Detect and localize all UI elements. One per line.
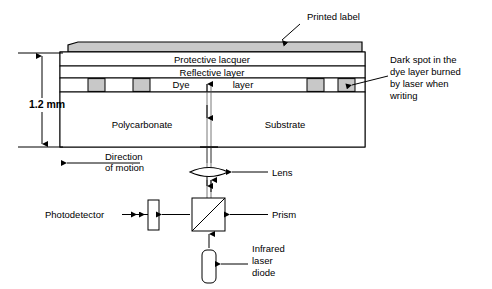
substrate-label: Substrate: [265, 119, 306, 130]
direction-of-motion-callout: Direction of motion: [67, 151, 144, 173]
dark-spot-pit: [133, 79, 150, 92]
cd-r-cross-section-diagram: Protective lacquer Reflective layer Dye …: [0, 0, 492, 289]
dark-spot-pit: [88, 79, 105, 92]
layer-label: layer: [233, 79, 254, 90]
lens-icon: [190, 168, 228, 177]
direction-of-motion-line-2: of motion: [105, 162, 144, 173]
protective-lacquer-layer: Protective lacquer: [60, 52, 365, 66]
direction-of-motion-line-1: Direction: [105, 151, 143, 162]
diagram-canvas: Protective lacquer Reflective layer Dye …: [0, 0, 492, 289]
laser-diode-line-3: diode: [252, 267, 275, 278]
laser-diode-line-2: laser: [252, 255, 273, 266]
polycarbonate-label: Polycarbonate: [112, 119, 173, 130]
printed-label-callout-text: Printed label: [307, 11, 360, 22]
prism-assembly: Prism: [192, 198, 296, 231]
thickness-label: 1.2 mm: [29, 98, 65, 110]
dark-spot-line-2: dye layer burned: [390, 66, 461, 77]
printed-label-callout: Printed label: [282, 11, 360, 40]
lens-label: Lens: [272, 167, 293, 178]
photodetector-label: Photodetector: [45, 209, 104, 220]
dye-layer: Dye layer: [60, 78, 365, 92]
dark-spot-pit: [307, 79, 324, 92]
reflective-layer: Reflective layer: [60, 66, 365, 78]
thickness-dimension: 1.2 mm: [18, 53, 65, 147]
reflective-layer-label: Reflective layer: [180, 67, 245, 78]
polycarbonate-substrate: Polycarbonate Substrate: [60, 92, 365, 147]
laser-diode-line-1: Infrared: [252, 243, 285, 254]
photodetector-icon: [148, 200, 159, 230]
dark-spot-line-4: writing: [389, 90, 417, 101]
dark-spot-line-1: Dark spot in the: [390, 54, 457, 65]
lens-assembly: Lens: [190, 167, 293, 178]
laser-diode-assembly: Infrared laser diode: [202, 234, 285, 283]
photodetector-assembly: Photodetector: [45, 200, 190, 230]
laser-diode-icon: [202, 250, 216, 283]
dark-spot-line-3: by laser when: [390, 78, 449, 89]
dye-label: Dye: [173, 79, 190, 90]
printed-label-slab: [68, 42, 362, 52]
dark-spot-callout: Dark spot in the dye layer burned by las…: [352, 54, 461, 101]
protective-lacquer-label: Protective lacquer: [174, 54, 250, 65]
prism-label: Prism: [272, 209, 296, 220]
